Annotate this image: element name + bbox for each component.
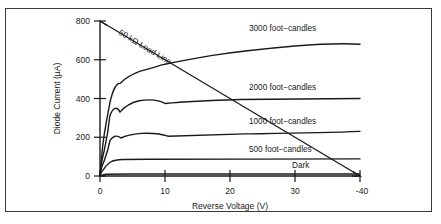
curve-1000	[100, 131, 360, 176]
curve-3000	[100, 44, 360, 176]
x-ticklabel-20: 20	[225, 186, 235, 196]
series-label-500: 500 foot−candles	[249, 145, 312, 154]
figure-container: 800 600 400 200 0 0 10 20 30 -40 Reverse…	[0, 0, 441, 224]
x-ticklabel-30: 30	[290, 186, 300, 196]
y-ticklabel-200: 200	[76, 132, 90, 142]
y-ticklabel-800: 800	[76, 16, 90, 26]
series-label-3000: 3000 foot−candles	[249, 24, 316, 33]
y-ticklabel-400: 400	[76, 94, 90, 104]
series-label-2000: 2000 foot−candles	[249, 83, 316, 92]
series-label-dark: Dark	[292, 161, 310, 170]
x-ticklabel-0: 0	[98, 186, 103, 196]
curve-2000	[100, 99, 360, 177]
x-ticklabel-40: -40	[356, 186, 369, 196]
load-line-start-mark	[100, 21, 107, 26]
load-line-label: 50 kΩ Load Line	[117, 28, 173, 67]
series-label-1000: 1000 foot−candles	[249, 117, 316, 126]
x-ticklabel-10: 10	[160, 186, 170, 196]
y-ticklabel-0: 0	[85, 171, 90, 181]
chart-canvas: 800 600 400 200 0 0 10 20 30 -40 Reverse…	[0, 0, 441, 224]
y-ticklabel-600: 600	[76, 55, 90, 65]
y-axis-title: Diode Current (µA)	[52, 63, 62, 135]
x-axis-title: Reverse Voltage (V)	[192, 201, 268, 211]
